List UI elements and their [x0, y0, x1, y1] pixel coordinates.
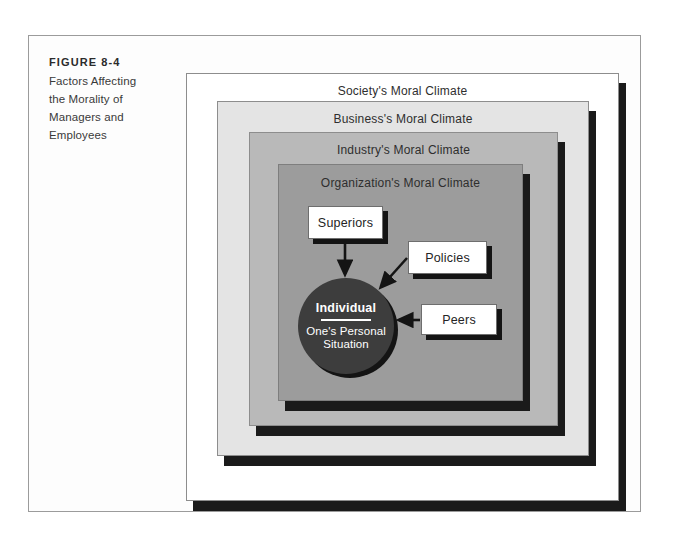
- factor-box-peers: Peers: [421, 304, 497, 335]
- individual-subtitle: One's Personal Situation: [303, 325, 389, 351]
- arrow-policies-to-individual: [381, 258, 407, 287]
- figure-page: FIGURE 8-4 Factors Affecting the Moralit…: [0, 0, 675, 551]
- diagram-stage: Individual One's Personal Situation Supe…: [29, 36, 642, 513]
- figure-frame: FIGURE 8-4 Factors Affecting the Moralit…: [28, 35, 641, 512]
- individual-divider: [321, 319, 371, 321]
- factor-box-superiors: Superiors: [308, 206, 383, 239]
- individual-circle: Individual One's Personal Situation: [298, 278, 394, 374]
- factor-box-policies: Policies: [408, 241, 487, 274]
- arrow-layer: [29, 36, 642, 513]
- individual-title: Individual: [316, 301, 376, 315]
